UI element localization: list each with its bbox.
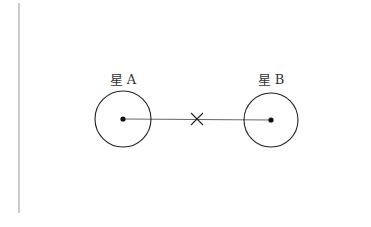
star-a-label: 星 A [110, 72, 137, 87]
star-a-center-dot [120, 116, 125, 121]
star-b-center-dot [268, 117, 273, 122]
star-b-label: 星 B [258, 72, 285, 87]
star-a: 星 A [95, 72, 151, 147]
center-of-mass-cross-icon [191, 113, 203, 125]
binary-star-diagram: 星 A 星 B [0, 0, 371, 227]
star-b: 星 B [244, 72, 298, 147]
